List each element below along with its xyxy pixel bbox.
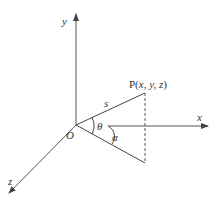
x-axis-label: x — [196, 111, 202, 123]
theta-arc — [92, 118, 94, 135]
theta-label: θ — [97, 120, 103, 132]
point-label-coords: x, y, z — [138, 78, 164, 90]
origin-label: O — [66, 129, 74, 141]
point-label-prefix: P( — [129, 78, 139, 91]
coordinate-diagram: y x z O s θ α P(x, y, z) — [0, 0, 218, 206]
projection-line — [76, 125, 145, 163]
point-label: P(x, y, z) — [129, 78, 167, 91]
segment-s-label: s — [104, 97, 108, 109]
y-axis-label: y — [61, 15, 67, 27]
segment-s — [76, 93, 145, 125]
point-label-suffix: ) — [163, 78, 167, 91]
alpha-label: α — [112, 131, 118, 143]
z-axis-label: z — [7, 175, 13, 187]
